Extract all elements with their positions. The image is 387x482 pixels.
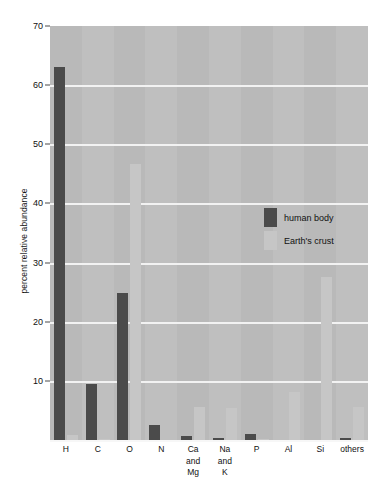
bar-earths-crust (289, 392, 300, 440)
bar-group (336, 26, 368, 440)
bar-earths-crust (321, 277, 332, 440)
x-axis-label: Si (304, 444, 336, 456)
bar-earths-crust (130, 164, 141, 440)
x-axis-label-line: O (114, 444, 146, 456)
plot-area: 10203040506070 human body Earth's crust (50, 26, 368, 440)
x-axis-label-line: and (177, 456, 209, 468)
x-axis-label-line: H (50, 444, 82, 456)
y-axis-tick-label: 70 (4, 21, 50, 31)
bar-group (145, 26, 177, 440)
bar-human-body (86, 384, 97, 440)
x-axis-label: CaandMg (177, 444, 209, 479)
x-axis-label: others (336, 444, 368, 456)
bar-group (50, 26, 82, 440)
legend: human body Earth's crust (264, 206, 334, 252)
bar-human-body (117, 293, 128, 440)
x-axis-label-line: Na (209, 444, 241, 456)
bar-human-body (213, 438, 224, 440)
bar-human-body (149, 425, 160, 440)
x-axis-label: O (114, 444, 146, 456)
x-axis-label-line: Al (273, 444, 305, 456)
x-axis-label: P (241, 444, 273, 456)
x-axis-label: Al (273, 444, 305, 456)
bar-earths-crust (258, 439, 269, 441)
x-axis-label-line: and (209, 456, 241, 468)
x-axis-label: H (50, 444, 82, 456)
y-axis-tick-label: 30 (4, 258, 50, 268)
x-axis-label: N (145, 444, 177, 456)
legend-swatch-earths-crust (264, 231, 277, 250)
x-axis-label-line: N (145, 444, 177, 456)
y-axis-tick-label: 10 (4, 376, 50, 386)
y-axis-title: percent relative abundance (19, 141, 29, 341)
bar-earths-crust (67, 435, 78, 440)
legend-item-earths-crust: Earth's crust (264, 229, 334, 252)
x-axis-label: NaandK (209, 444, 241, 479)
y-axis-tick-label: 60 (4, 80, 50, 90)
legend-swatch-human-body (264, 208, 277, 227)
legend-label-earths-crust: Earth's crust (284, 236, 334, 246)
y-axis-tick-label: 50 (4, 139, 50, 149)
y-axis-tick-label: 40 (4, 198, 50, 208)
bar-human-body (340, 438, 351, 440)
axis-baseline (50, 440, 368, 442)
y-axis-tick-label: 20 (4, 317, 50, 327)
x-axis-label-line: P (241, 444, 273, 456)
x-axis-label-line: Mg (177, 467, 209, 479)
x-axis-label-line: K (209, 467, 241, 479)
bar-chart: percent relative abundance 1020304050607… (0, 0, 387, 482)
legend-label-human-body: human body (284, 213, 334, 223)
x-axis-label-line: Ca (177, 444, 209, 456)
bar-group (209, 26, 241, 440)
bar-earths-crust (194, 407, 205, 440)
x-axis-label-line: Si (304, 444, 336, 456)
bar-earths-crust (99, 439, 110, 441)
x-axis-label-line: others (336, 444, 368, 456)
bar-human-body (54, 67, 65, 440)
x-axis-label: C (82, 444, 114, 456)
bar-human-body (181, 436, 192, 440)
bar-group (114, 26, 146, 440)
bar-human-body (245, 434, 256, 440)
bar-group (177, 26, 209, 440)
x-axis-label-line: C (82, 444, 114, 456)
legend-item-human-body: human body (264, 206, 334, 229)
bar-earths-crust (226, 408, 237, 440)
bar-earths-crust (353, 407, 364, 440)
bar-group (82, 26, 114, 440)
